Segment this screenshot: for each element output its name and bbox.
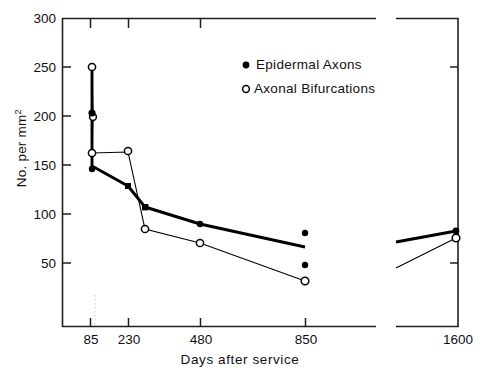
y-axis-label-text: No. per mm	[14, 115, 29, 188]
data-point-open	[124, 147, 131, 154]
legend-markers	[243, 62, 250, 93]
data-point-open	[141, 225, 148, 232]
legend-item-axonal-bifurcations: Axonal Bifurcations	[254, 81, 375, 96]
x-tick-label-850: 850	[276, 332, 336, 347]
x-axis-ticks	[91, 318, 306, 327]
data-point-filled	[125, 183, 131, 189]
y-tick-label-100: 100	[16, 207, 56, 222]
series-epidermal-axons-markers	[88, 109, 459, 268]
series-axonal-bifurcations-markers	[88, 63, 459, 284]
data-point-open	[452, 234, 460, 242]
chart-plot-area	[0, 0, 483, 382]
data-point-filled	[302, 230, 308, 236]
data-point-filled	[197, 221, 203, 227]
x-tick-label-230: 230	[99, 332, 159, 347]
data-point-open	[88, 149, 95, 156]
x-axis-label: Days after service	[120, 352, 360, 367]
x-tick-label-1600: 1600	[428, 332, 483, 347]
y-tick-label-250: 250	[16, 60, 56, 75]
y-tick-label-300: 300	[16, 11, 56, 26]
legend-open-circle-icon	[243, 86, 250, 93]
y-axis-ticks	[62, 67, 71, 263]
legend-item-epidermal-axons: Epidermal Axons	[256, 57, 362, 72]
data-point-open	[196, 239, 203, 246]
x-tick-label-480: 480	[171, 332, 231, 347]
series-axonal-bifurcations	[92, 67, 456, 281]
data-point-filled	[453, 228, 460, 235]
y-tick-label-50: 50	[16, 256, 56, 271]
data-point-filled	[89, 166, 95, 172]
y-axis-label-exponent: 2	[13, 109, 23, 114]
y-axis-label: No. per mm2	[13, 93, 30, 203]
x-axis-ticks-top	[91, 19, 201, 28]
data-point-open	[88, 63, 95, 70]
data-point-filled	[142, 204, 148, 210]
legend-filled-circle-icon	[243, 62, 250, 69]
data-point-open	[301, 277, 309, 285]
data-point-filled	[88, 109, 95, 116]
data-point-filled	[302, 262, 308, 268]
chart-figure: 300 250 200 150 100 50 85 230 480 850 16…	[0, 0, 483, 382]
